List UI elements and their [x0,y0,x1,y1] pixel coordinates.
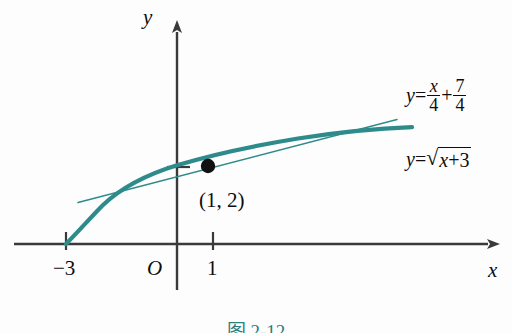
tangent-fraction-x-over-4: x 4 [427,77,440,114]
radicand-variable: x [439,149,448,171]
tangent-denominator-4b: 4 [453,95,466,114]
sqrt-curve [66,127,412,244]
radicand: x+3 [438,147,471,172]
radicand-constant: 3 [459,149,469,171]
radicand-plus-sign: + [448,149,459,171]
x-tick-label-1: 1 [207,256,218,281]
x-axis-label: x [488,258,497,283]
origin-label: O [147,256,162,281]
x-tick-label-minus3: −3 [53,256,75,281]
tangent-numerator-7: 7 [453,77,466,95]
figure-caption: 图 2-12 [0,316,512,333]
y-axis-label: y [143,5,152,30]
curve-equals: = [415,148,426,171]
tangent-lhs: y [406,84,415,107]
tangent-denominator-4: 4 [427,95,440,114]
point-marker [201,159,215,173]
curve-equation: y = √ x+3 [406,147,471,172]
tangent-plus-sign: + [441,84,452,107]
radical-sign-icon: √ [426,147,438,172]
tangent-fraction-7-over-4: 7 4 [453,77,466,114]
curve-lhs: y [406,148,415,171]
tangent-equation: y = x 4 + 7 4 [406,77,467,114]
tangent-numerator-x: x [428,77,440,95]
tangent-equals: = [415,84,426,107]
point-label: (1, 2) [199,188,245,213]
radical-expression: √ x+3 [426,147,471,172]
